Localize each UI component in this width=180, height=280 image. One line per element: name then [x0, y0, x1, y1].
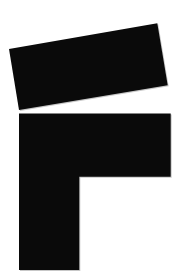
logo-mark [0, 0, 180, 280]
logo-canvas [0, 0, 180, 280]
logo-body-shape [19, 114, 171, 271]
logo-top-bar-shape [9, 23, 168, 110]
